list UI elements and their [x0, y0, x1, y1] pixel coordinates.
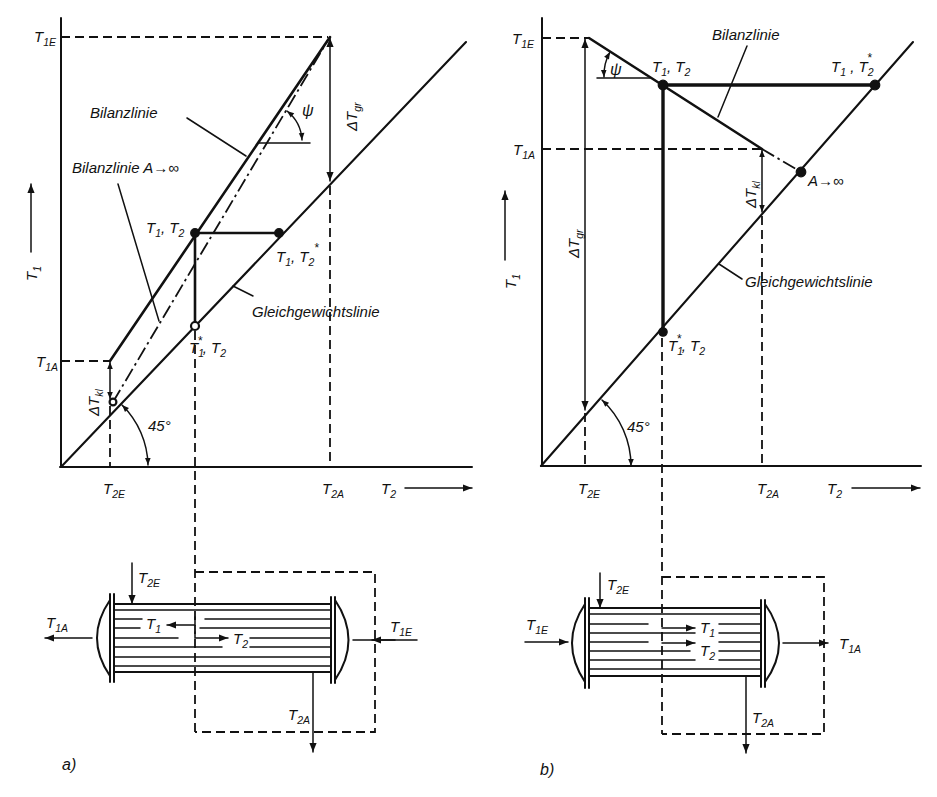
equilibrium-point-t2	[275, 229, 284, 238]
flow-1-label: T1	[146, 615, 161, 635]
equilibrium-line-leader	[233, 286, 253, 296]
tick-label-t1a: T1A	[36, 353, 58, 373]
equilibrium-point-t1	[659, 328, 667, 336]
pinch-point	[110, 399, 117, 406]
tick-subscript: 2A	[330, 488, 344, 500]
tick-subscript: 1A	[522, 149, 535, 161]
label-part: 2	[708, 650, 715, 662]
panel-a-exchanger: T2E T1A T1E T2A T1 T2 a)	[45, 563, 417, 773]
panel-a-diagram: T1 T2 T1E T1A T2E T2A ΔTgr ΔTkl	[23, 18, 472, 732]
delta-subscript: gr	[573, 229, 585, 239]
x-axis-subscript: 2	[389, 488, 396, 500]
inlet-1-label: T1E	[526, 616, 549, 636]
label-part: 1E	[399, 626, 413, 638]
tick-label-t1e: T1E	[512, 30, 535, 50]
tick-label-t2a: T2A	[322, 480, 344, 500]
panel-b-exchanger: T2E T1E T1A T2A T1 T2 b)	[525, 573, 861, 778]
label-part: 2	[308, 256, 315, 268]
tube-bundle	[589, 614, 761, 669]
left-head	[97, 600, 110, 676]
psi-label: ψ	[302, 102, 314, 119]
label-part: ,	[667, 58, 675, 75]
equilibrium-line-leader	[719, 264, 742, 279]
label-part: 2A	[760, 717, 774, 729]
y-axis-subscript: 1	[31, 266, 43, 272]
label-part: 2	[684, 66, 691, 78]
delta-t-kl-label: ΔTkl	[85, 389, 105, 417]
label-part: 2A	[296, 714, 310, 726]
label-part: 1	[155, 623, 161, 635]
tick-label-t2e: T2E	[103, 480, 126, 500]
operating-point-label: T1, T2	[146, 219, 185, 239]
diagonal-angle-label: 45°	[148, 417, 171, 434]
y-axis-label: T1	[502, 274, 522, 289]
inlet-2-label: T2E	[138, 569, 161, 589]
label-part: 2E	[146, 577, 161, 589]
operating-point	[658, 80, 668, 90]
inlet-2-label: T2E	[607, 576, 630, 596]
balance-line-infinite-label: A→∞	[807, 172, 844, 189]
label-part: 2	[867, 66, 874, 78]
outlet-2-label: T2A	[288, 706, 310, 726]
equilibrium-line	[541, 42, 913, 466]
equilibrium-point-t2-label: T1, T2*	[276, 241, 319, 268]
delta-t-kl-label: ΔTkl	[742, 181, 762, 209]
equilibrium-line-label: Gleichgewichtslinie	[745, 273, 873, 290]
label-part: ,	[203, 339, 211, 356]
label-part: 2	[241, 638, 248, 650]
equilibrium-point-t2-label: T1 , T2*	[831, 51, 874, 78]
psi-angle-arc	[287, 111, 302, 140]
equilibrium-point-t1	[191, 322, 199, 330]
flow-1-label: T1	[700, 619, 715, 639]
delta-symbol: ΔT	[85, 395, 102, 417]
balance-line-label: Bilanzlinie	[90, 104, 158, 121]
delta-subscript: kl	[750, 181, 762, 189]
tick-label-t2e: T2E	[578, 480, 601, 500]
x-axis-subscript: 2	[835, 488, 842, 500]
label-part: ,	[291, 248, 299, 265]
diagonal-angle-arc	[122, 405, 148, 465]
label-part: 2	[698, 345, 705, 357]
label-part: ,	[682, 337, 690, 354]
tick-subscript: 2A	[765, 488, 779, 500]
equilibrium-point-t2	[870, 80, 880, 90]
label-part: 1A	[848, 643, 861, 655]
equilibrium-point-t1-label: T1*, T2	[668, 332, 705, 357]
tick-subscript: 1E	[521, 38, 535, 50]
operating-point	[191, 229, 200, 238]
delta-subscript: gr	[351, 102, 363, 112]
delta-symbol: ΔT	[742, 187, 759, 209]
flow-2-arrow-icon	[195, 632, 228, 638]
diagonal-angle-label: 45°	[627, 418, 650, 435]
y-axis-label: T1	[23, 266, 43, 281]
right-head	[765, 604, 779, 682]
outlet-2-label: T2A	[752, 709, 774, 729]
balance-line-infinite-label: Bilanzlinie A→∞	[72, 159, 179, 176]
label-part: 1E	[535, 624, 549, 636]
label-part: ,	[846, 58, 859, 75]
delta-subscript: kl	[93, 389, 105, 397]
outlet-1-label: T1A	[839, 635, 861, 655]
inlet-1-label: T1E	[390, 618, 413, 638]
operating-point-label: T1, T2	[652, 58, 691, 78]
figure-canvas: T1 T2 T1E T1A T2E T2A ΔTgr ΔTkl	[0, 0, 937, 797]
flow-2-label: T2	[233, 630, 248, 650]
tick-label-t1a: T1A	[513, 141, 535, 161]
delta-t-gr-label: ΔTgr	[343, 102, 363, 132]
pinch-point	[796, 167, 806, 177]
label-part: 2	[178, 227, 185, 239]
equilibrium-line-label: Gleichgewichtslinie	[252, 303, 380, 320]
right-head	[335, 600, 349, 680]
y-axis-subscript: 1	[510, 274, 522, 280]
panel-b-caption: b)	[540, 761, 554, 778]
balance-line-infinite	[762, 149, 801, 172]
label-part: *	[868, 51, 873, 65]
flow-2-label: T2	[700, 642, 715, 662]
flow-1-arrow-icon	[167, 617, 195, 625]
label-part: 1	[709, 627, 715, 639]
balance-line	[589, 38, 762, 149]
delta-symbol: ΔT	[565, 237, 582, 259]
balance-line-infinite-leader	[118, 184, 159, 321]
label-part: ,	[161, 219, 169, 236]
label-part: 1A	[55, 622, 68, 634]
